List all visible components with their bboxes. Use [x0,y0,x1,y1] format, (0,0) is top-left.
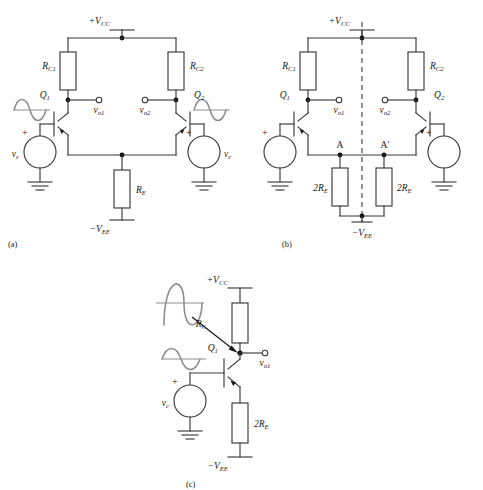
label-q2-a: Q2 [194,90,205,101]
resistor-rc1-b [300,52,316,90]
resistor-rc-c [232,303,248,343]
vo1-terminal-c [262,350,268,356]
label-re-a: RE [135,185,147,196]
label-vc-left-a: vc [12,149,19,160]
label-2re-c: 2RE [254,419,270,430]
panel-b-split-emitter: +VCC RC1 RC2 Q1 Q2 vo1 vo2 A A′ 2RE 2RE … [240,0,483,250]
label-vo1-b: vo1 [333,105,344,116]
label-plus-c: + [172,376,178,387]
label-plus-right-b: + [426,127,432,138]
resistor-rc1-a [60,52,76,90]
q1-collector-slant-c [228,359,240,369]
label-2re-right-b: 2RE [397,183,413,194]
q1-collector-slant-b [298,113,308,121]
resistor-2re-left-b [332,168,348,206]
label-vc-right-a: vc [224,149,231,160]
label-rc-c: RC [195,319,207,330]
label-q1-a: Q1 [40,90,50,101]
figure-canvas: +VCC RC1 RC2 Q1 Q2 vo1 vo2 RE −VEE + vc … [0,0,483,490]
label-plus-right-a: + [186,127,192,138]
label-vo2-a: vo2 [139,105,151,116]
label-rc2-a: RC2 [189,61,204,72]
label-vee-b: −VEE [352,228,373,239]
label-node-a-b: A [337,140,344,150]
label-vee-c: −VEE [207,461,228,472]
source-vc-c[interactable] [174,385,206,417]
label-rc2-b: RC2 [429,61,444,72]
vo2-terminal-a [142,97,148,103]
panel-a-differential-pair: +VCC RC1 RC2 Q1 Q2 vo1 vo2 RE −VEE + vc … [0,0,243,250]
label-vc-c: vc [162,398,169,409]
panel-caption-a: (a) [8,239,18,249]
resistor-rc2-a [168,52,184,90]
label-plus-left-a: + [22,127,28,138]
label-q1-c: Q1 [208,343,218,354]
source-right-b[interactable] [428,136,460,168]
q1-collector-slant-a [58,113,68,121]
vo1-terminal-a [96,97,102,103]
label-vo1-c: vo1 [259,358,270,369]
label-2re-left-b: 2RE [313,183,329,194]
resistor-re-a [114,170,130,208]
source-vc-right-a[interactable] [188,136,220,168]
label-vo1-a: vo1 [93,105,104,116]
resistor-rc2-b [408,52,424,90]
label-vee-a: −VEE [89,224,110,235]
label-vcc-a: +VCC [89,16,111,27]
label-node-a-prime-b: A′ [381,140,390,150]
panel-caption-b: (b) [282,239,292,249]
resistor-2re-c [232,403,248,443]
q2-collector-slant-a [176,113,186,121]
panel-c-half-circuit: +VCC RC Q1 vo1 2RE −VEE + vc (c) [150,255,380,490]
label-vcc-b: +VCC [329,16,351,27]
label-vcc-c: +VCC [207,275,229,286]
resistor-2re-right-b [376,168,392,206]
label-vo2-b: vo2 [379,105,391,116]
label-q1-b: Q1 [280,90,290,101]
panel-caption-c: (c) [186,479,196,489]
label-plus-left-b: + [262,127,268,138]
vo1-terminal-b [336,97,342,103]
label-q2-b: Q2 [434,90,445,101]
source-vc-left-a[interactable] [24,136,56,168]
q2-collector-slant-b [416,113,426,121]
label-rc1-a: RC1 [41,61,56,72]
source-left-b[interactable] [264,136,296,168]
label-rc1-b: RC1 [281,61,296,72]
vo2-terminal-b [382,97,388,103]
